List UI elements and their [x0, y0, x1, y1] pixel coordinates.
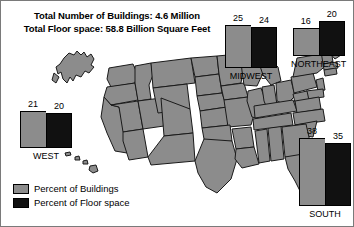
- bar-northeast-buildings[interactable]: [293, 28, 319, 56]
- bar-value-northeast-floor: 20: [327, 9, 337, 20]
- bar-value-south-buildings: 38: [307, 126, 317, 137]
- bar-northeast-floor[interactable]: [319, 21, 345, 56]
- chart-figure: Total Number of Buildings: 4.6 Million T…: [0, 0, 354, 227]
- region-label-west: WEST: [20, 150, 72, 162]
- state-indiana: [262, 85, 277, 113]
- legend-item-buildings: Percent of Buildings: [13, 183, 130, 194]
- chart-legend: Percent of Buildings Percent of Floor sp…: [13, 183, 130, 211]
- bar-south-buildings[interactable]: [299, 138, 325, 206]
- state-louisiana: [235, 147, 259, 168]
- state-alaska-tail: [52, 73, 59, 83]
- bar-group-northeast: 16 20 NORTHEAST: [291, 9, 346, 70]
- state-nebraska: [197, 93, 227, 111]
- state-utah: [138, 98, 164, 129]
- state-iowa: [221, 83, 248, 100]
- bar-value-midwest-floor: 24: [259, 15, 269, 26]
- bar-value-midwest-buildings: 25: [233, 13, 243, 24]
- bar-col-south-buildings: 38: [299, 126, 325, 206]
- state-north-dakota: [191, 56, 219, 77]
- state-arizona: [123, 129, 148, 160]
- state-kentucky: [254, 100, 297, 118]
- state-illinois: [247, 88, 267, 119]
- bar-col-midwest-buildings: 25: [225, 13, 251, 68]
- bars-midwest: 25 24: [225, 13, 277, 68]
- bar-col-south-floor: 35: [325, 131, 351, 206]
- state-maryland-delaware: [306, 89, 324, 99]
- bars-west: 21 20: [20, 99, 72, 148]
- bars-northeast: 16 20: [291, 9, 346, 56]
- state-ohio: [276, 80, 295, 105]
- legend-label-buildings: Percent of Buildings: [34, 183, 119, 194]
- state-virginia: [295, 97, 321, 113]
- state-south-dakota: [195, 74, 222, 96]
- state-pennsylvania: [291, 73, 317, 93]
- bars-south: 38 35: [299, 126, 351, 206]
- bar-col-west-floor: 20: [46, 101, 72, 148]
- legend-item-floorspace: Percent of Floor space: [13, 197, 130, 208]
- bar-midwest-buildings[interactable]: [225, 25, 251, 68]
- state-kansas: [200, 107, 230, 128]
- legend-swatch-buildings-icon: [13, 184, 29, 194]
- bar-group-west: 21 20 WEST: [20, 99, 72, 162]
- state-wyoming: [153, 84, 190, 113]
- bar-group-midwest: 25 24 MIDWEST: [225, 13, 277, 82]
- bar-west-floor[interactable]: [46, 113, 72, 148]
- state-missouri: [224, 97, 255, 127]
- bar-west-buildings[interactable]: [20, 111, 46, 148]
- state-north-carolina: [293, 109, 325, 125]
- title-line-floorspace: Total Floor space: 58.8 Billion Square F…: [13, 22, 221, 35]
- state-oklahoma: [202, 125, 232, 144]
- bar-col-midwest-floor: 24: [251, 15, 277, 68]
- bar-col-west-buildings: 21: [20, 99, 46, 148]
- region-label-northeast: NORTHEAST: [291, 58, 346, 70]
- state-arkansas: [232, 127, 254, 149]
- state-montana: [151, 58, 195, 88]
- state-colorado: [161, 98, 193, 136]
- state-oregon: [104, 83, 138, 105]
- state-new-jersey: [316, 78, 325, 91]
- state-alabama: [268, 126, 284, 161]
- legend-label-floorspace: Percent of Floor space: [34, 197, 130, 208]
- state-california: [101, 97, 131, 153]
- state-idaho: [135, 63, 153, 101]
- state-west-virginia: [293, 91, 310, 107]
- bar-col-northeast-floor: 20: [319, 9, 345, 56]
- bar-group-south: 38 35 SOUTH: [299, 126, 351, 220]
- title-line-buildings: Total Number of Buildings: 4.6 Million: [13, 9, 221, 22]
- state-washington: [107, 64, 137, 87]
- bar-midwest-floor[interactable]: [251, 27, 277, 68]
- region-label-south: SOUTH: [299, 208, 351, 220]
- bar-value-south-floor: 35: [333, 131, 343, 142]
- state-new-mexico: [148, 133, 195, 165]
- legend-swatch-floorspace-icon: [13, 198, 29, 208]
- state-tennessee: [253, 113, 293, 130]
- bar-value-northeast-buildings: 16: [301, 16, 311, 27]
- bar-south-floor[interactable]: [325, 143, 351, 206]
- bar-value-west-buildings: 21: [28, 99, 38, 110]
- state-texas: [195, 139, 237, 193]
- state-nevada: [111, 101, 143, 132]
- bar-value-west-floor: 20: [54, 101, 64, 112]
- state-alaska: [56, 51, 94, 83]
- bar-col-northeast-buildings: 16: [293, 16, 319, 56]
- state-mississippi: [255, 129, 270, 163]
- region-label-midwest: MIDWEST: [225, 70, 277, 82]
- chart-title: Total Number of Buildings: 4.6 Million T…: [13, 9, 221, 35]
